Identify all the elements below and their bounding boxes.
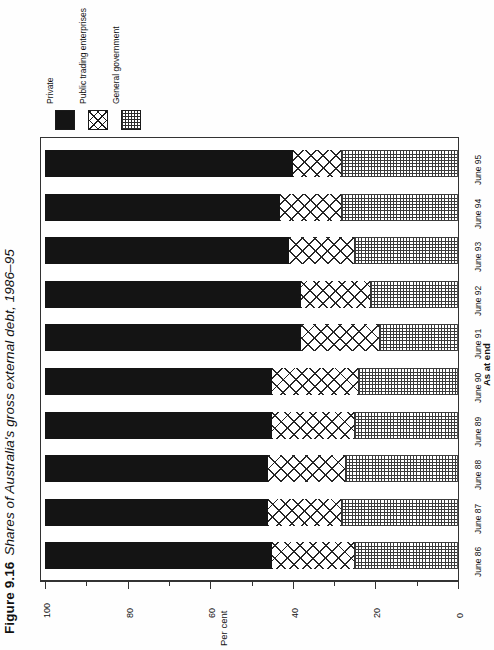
bar-june-94	[45, 194, 458, 221]
bar-june-88	[45, 455, 458, 482]
bar-segment-pte	[268, 499, 342, 526]
cross-hatch-swatch	[88, 110, 108, 130]
axis-tick-major	[210, 581, 211, 589]
value-axis-label: 40	[288, 592, 318, 622]
value-axis-label: 20	[370, 592, 400, 622]
axis-tick-major	[128, 581, 129, 589]
value-axis-label-text: 40	[290, 608, 300, 618]
bar-segment-pte	[289, 237, 355, 264]
bar-segment-private	[45, 499, 268, 526]
legend-item: General government	[121, 8, 147, 130]
bar-segment-private	[45, 542, 272, 569]
value-axis-line	[40, 581, 459, 582]
solid-black-swatch	[55, 110, 75, 130]
category-label-text: June 89	[473, 416, 483, 446]
bar-segment-private	[45, 237, 289, 264]
category-label-text: June 93	[473, 242, 483, 272]
bar-june-86	[45, 542, 458, 569]
axis-tick-major	[293, 581, 294, 589]
value-axis-label: 100	[40, 592, 70, 622]
bar-segment-private	[45, 368, 272, 395]
axis-tick-minor	[334, 581, 335, 586]
bar-segment-private	[45, 150, 293, 177]
bar-segment-pte	[272, 542, 355, 569]
bar-june-91	[45, 324, 458, 351]
axis-tick-major	[375, 581, 376, 589]
bar-segment-gov	[346, 455, 458, 482]
bar-june-87	[45, 499, 458, 526]
bar-segment-gov	[371, 281, 458, 308]
value-axis-label-text: 60	[207, 608, 217, 618]
bar-segment-pte	[293, 150, 343, 177]
value-axis-label-text: 0	[455, 613, 465, 618]
category-label-text: June 88	[473, 460, 483, 490]
bar-segment-private	[45, 412, 272, 439]
figure-title-block: Figure 9.16Shares of Australia's gross e…	[2, 214, 28, 634]
bar-segment-gov	[342, 499, 458, 526]
value-axis-label-text: 80	[125, 608, 135, 618]
category-label-text: June 94	[473, 198, 483, 228]
axis-tick-minor	[86, 581, 87, 586]
category-label-text: June 91	[473, 329, 483, 359]
axis-tick-minor	[169, 581, 170, 586]
bar-segment-private	[45, 455, 268, 482]
bar-segment-pte	[301, 324, 379, 351]
bar-june-92	[45, 281, 458, 308]
legend-item-label: Private	[45, 78, 55, 104]
bar-segment-gov	[355, 237, 458, 264]
axis-tick-major	[45, 581, 46, 589]
axis-tick-minor	[252, 581, 253, 586]
category-label-text: June 92	[473, 286, 483, 316]
legend-item-label: Public trading enterprises	[78, 8, 88, 104]
figure-number: Figure 9.16	[2, 562, 17, 634]
bar-june-95	[45, 150, 458, 177]
bar-segment-gov	[355, 542, 458, 569]
category-label-text: June 86	[473, 547, 483, 577]
value-axis-label: 60	[205, 592, 235, 622]
value-axis-label: 0	[453, 592, 483, 622]
value-axis-label-text: 20	[372, 608, 382, 618]
value-axis-label: 80	[123, 592, 153, 622]
legend-item-label: General government	[111, 27, 121, 105]
dotted-grid-swatch	[121, 110, 141, 130]
legend: PrivatePublic trading enterprisesGeneral…	[55, 8, 145, 130]
bar-segment-pte	[268, 455, 346, 482]
bar-segment-private	[45, 324, 301, 351]
bar-segment-private	[45, 281, 301, 308]
value-axis-label-text: 100	[42, 603, 52, 618]
axis-tick-minor	[417, 581, 418, 586]
bar-segment-gov	[380, 324, 458, 351]
bar-segment-pte	[301, 281, 371, 308]
bar-segment-pte	[272, 368, 359, 395]
bar-segment-pte	[272, 412, 355, 439]
bar-segment-gov	[342, 150, 458, 177]
bar-june-89	[45, 412, 458, 439]
bar-june-90	[45, 368, 458, 395]
axis-tick-major	[458, 581, 459, 589]
category-label-text: June 90	[473, 373, 483, 403]
page-title: Shares of Australia's gross external deb…	[2, 249, 17, 562]
category-label-text: June 95	[473, 155, 483, 185]
bar-segment-gov	[342, 194, 458, 221]
category-label-text: June 87	[473, 504, 483, 534]
category-label: June 95	[462, 133, 476, 193]
plot-area	[40, 137, 459, 581]
bar-june-93	[45, 237, 458, 264]
bar-segment-private	[45, 194, 280, 221]
bar-segment-gov	[355, 412, 458, 439]
bar-segment-pte	[280, 194, 342, 221]
bar-segment-gov	[359, 368, 458, 395]
